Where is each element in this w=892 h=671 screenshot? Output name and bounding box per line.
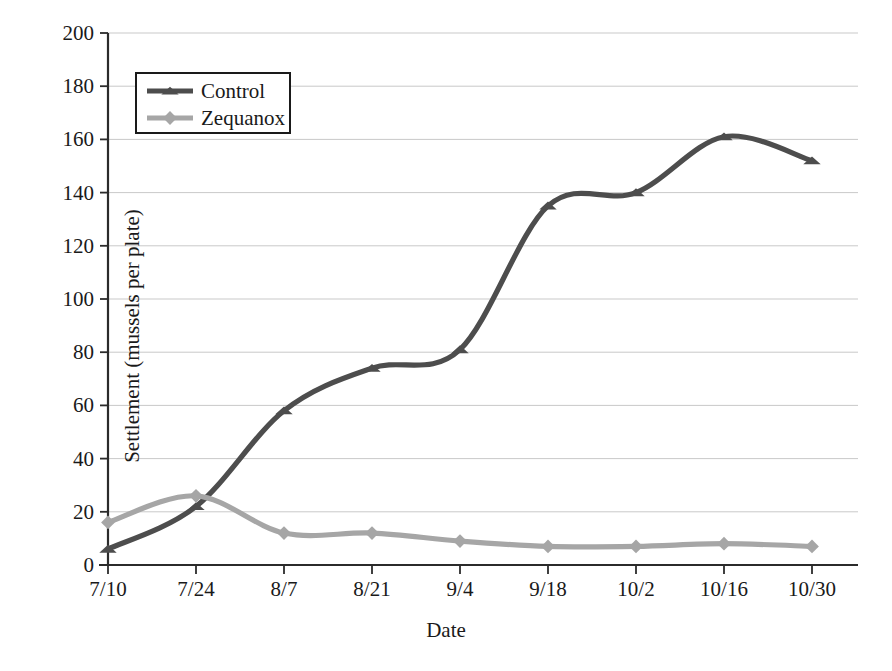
chart-legend: Control Zequanox xyxy=(135,72,291,134)
y-tick-label: 40 xyxy=(20,448,94,469)
legend-swatch-control xyxy=(147,80,193,102)
x-tick-label: 7/10 xyxy=(89,579,126,600)
y-tick-label: 140 xyxy=(20,182,94,203)
y-tick-label: 180 xyxy=(20,76,94,97)
y-axis-title: Settlement (mussels per plate) xyxy=(120,209,145,463)
legend-label-control: Control xyxy=(201,79,265,104)
x-tick-label: 10/30 xyxy=(788,579,836,600)
y-tick-label: 100 xyxy=(20,289,94,310)
y-tick-label: 120 xyxy=(20,235,94,256)
x-tick-label: 10/2 xyxy=(617,579,654,600)
x-tick-label: 8/21 xyxy=(353,579,390,600)
x-tick-label: 10/16 xyxy=(700,579,748,600)
x-tick-label: 8/7 xyxy=(271,579,298,600)
y-tick-label: 0 xyxy=(20,555,94,576)
chart-figure: 020406080100120140160180200 7/107/248/78… xyxy=(0,0,892,671)
legend-label-zequanox: Zequanox xyxy=(201,106,285,131)
y-tick-label: 20 xyxy=(20,501,94,522)
legend-entry-zequanox: Zequanox xyxy=(147,105,285,131)
series-markers xyxy=(99,132,820,553)
y-tick-label: 60 xyxy=(20,395,94,416)
legend-swatch-zequanox xyxy=(147,107,193,129)
x-tick-label: 7/24 xyxy=(177,579,214,600)
series-lines xyxy=(108,136,812,549)
x-tick-label: 9/18 xyxy=(529,579,566,600)
y-tick-label: 80 xyxy=(20,342,94,363)
legend-entry-control: Control xyxy=(147,78,265,104)
x-tick-label: 9/4 xyxy=(447,579,474,600)
x-axis-title: Date xyxy=(0,618,892,643)
y-tick-label: 200 xyxy=(20,23,94,44)
y-tick-label: 160 xyxy=(20,129,94,150)
